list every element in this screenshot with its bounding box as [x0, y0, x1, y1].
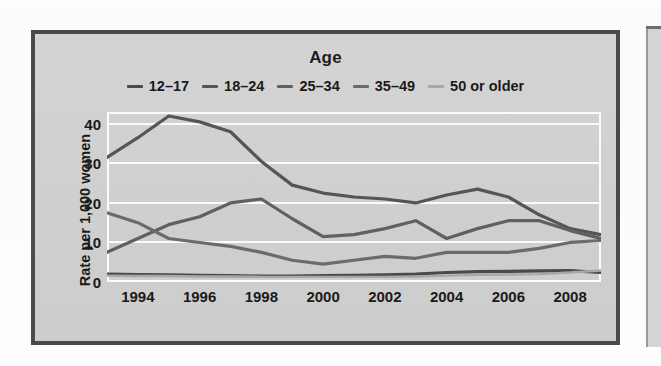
- x-axis-tick-labels: 19941996199820002002200420062008: [107, 288, 601, 312]
- legend-item: 35–49: [353, 78, 415, 94]
- legend-line-icon: [428, 85, 444, 88]
- legend-item-label: 50 or older: [450, 78, 524, 94]
- legend-item-label: 12–17: [149, 78, 189, 94]
- legend-item: 18–24: [202, 78, 264, 94]
- x-axis-tick: 2006: [492, 288, 525, 305]
- legend-item-label: 25–34: [299, 78, 339, 94]
- x-axis-tick: 1998: [245, 288, 278, 305]
- plot-area: [107, 112, 601, 282]
- chart-title: Age: [35, 48, 616, 68]
- legend-line-icon: [353, 85, 369, 88]
- y-axis-tick: 10: [84, 234, 101, 251]
- legend-line-icon: [277, 85, 293, 88]
- x-axis-tick: 2004: [430, 288, 463, 305]
- x-axis-tick: 2000: [306, 288, 339, 305]
- legend-line-icon: [202, 85, 218, 88]
- x-axis-tick: 1996: [183, 288, 216, 305]
- x-axis-tick: 2002: [368, 288, 401, 305]
- legend-item: 25–34: [277, 78, 339, 94]
- chart-legend: 12–1718–2425–3435–4950 or older: [35, 78, 616, 94]
- legend-item-label: 18–24: [224, 78, 264, 94]
- y-axis-tick: 0: [93, 274, 101, 291]
- legend-item-label: 35–49: [375, 78, 415, 94]
- plot-wrapper: Rate per 1,000 women 010203040 199419961…: [107, 112, 601, 312]
- legend-item: 12–17: [127, 78, 189, 94]
- figure-frame: Age 12–1718–2425–3435–4950 or older Rate…: [31, 30, 620, 345]
- x-axis-tick: 2008: [553, 288, 586, 305]
- series-line: [107, 116, 601, 235]
- y-axis-tick: 40: [84, 115, 101, 132]
- y-axis-tick: 30: [84, 155, 101, 172]
- scanned-page: Age 12–1718–2425–3435–4950 or older Rate…: [0, 0, 661, 366]
- series-lines: [107, 112, 601, 282]
- figure-background: Age 12–1718–2425–3435–4950 or older Rate…: [35, 34, 616, 341]
- y-axis-tick: 20: [84, 194, 101, 211]
- facing-page-sliver: [646, 26, 661, 347]
- x-axis-tick: 1994: [121, 288, 154, 305]
- legend-line-icon: [127, 85, 143, 88]
- y-axis-tick-labels: 010203040: [73, 112, 101, 282]
- legend-item: 50 or older: [428, 78, 524, 94]
